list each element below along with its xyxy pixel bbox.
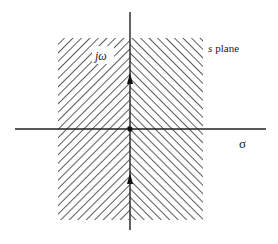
s-plane-diagram: jω splane σ <box>0 0 278 244</box>
plane-label: splane <box>208 42 239 54</box>
origin-dot-icon <box>127 126 132 131</box>
plane-word: plane <box>215 42 239 54</box>
imaginary-axis-label: jω <box>93 49 107 63</box>
plane-variable: s <box>208 42 212 54</box>
real-axis-label: σ <box>239 136 246 151</box>
